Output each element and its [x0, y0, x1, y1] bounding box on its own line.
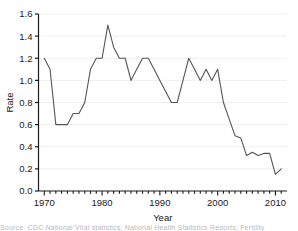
- y-tick-label: 1.0: [19, 75, 32, 86]
- y-tick-label: 1.4: [19, 31, 32, 42]
- x-tick-label: 1990: [149, 197, 170, 208]
- y-tick-label: 1.2: [19, 53, 32, 64]
- y-axis-title: Rate: [4, 92, 15, 112]
- y-tick-label: 0.0: [19, 185, 32, 196]
- data-series-line: [44, 25, 281, 174]
- y-tick-label: 0.8: [19, 97, 32, 108]
- y-tick-label: 0.6: [19, 119, 32, 130]
- x-axis-title: Year: [153, 212, 172, 223]
- x-tick-label: 2000: [207, 197, 228, 208]
- x-tick-label: 1970: [34, 197, 55, 208]
- y-tick-label: 0.2: [19, 163, 32, 174]
- x-tick-label: 1980: [91, 197, 112, 208]
- x-tick-label: 2010: [265, 197, 286, 208]
- source-caption: Source: CDC National Vital statistics; N…: [0, 225, 298, 231]
- y-tick-label: 1.6: [19, 8, 32, 19]
- chart-figure: 0.00.20.40.60.81.01.21.41.61970198019902…: [0, 0, 298, 231]
- source-caption-text: Source: CDC National Vital statistics; N…: [0, 225, 298, 231]
- line-chart-svg: 0.00.20.40.60.81.01.21.41.61970198019902…: [0, 0, 298, 231]
- y-tick-label: 0.4: [19, 141, 32, 152]
